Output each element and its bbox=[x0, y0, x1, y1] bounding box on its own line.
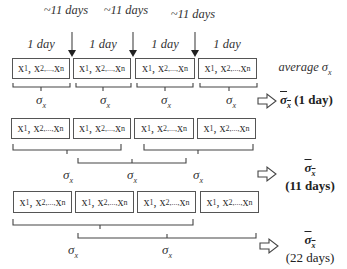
sigma-label: σx bbox=[193, 167, 203, 185]
result-arrow-1 bbox=[258, 94, 276, 108]
day-label-4: 1 day bbox=[213, 37, 240, 52]
sigma-label: σx bbox=[226, 92, 236, 110]
sigma-label: σx bbox=[100, 92, 110, 110]
result-11days: σx(11 days) bbox=[280, 160, 340, 194]
result-1day: σx (1 day) bbox=[280, 92, 333, 110]
sigma-label: σx bbox=[63, 167, 73, 185]
sample-box: x1, x2,...,xn bbox=[134, 118, 194, 139]
interval-label-2: ~11 days bbox=[104, 3, 148, 18]
sample-box: x1, x2,...,xn bbox=[200, 191, 259, 213]
result-arrow-3 bbox=[260, 239, 278, 253]
sigma-label: σx bbox=[36, 92, 46, 110]
result-22days: σx(22 days) bbox=[280, 232, 340, 266]
result-arrow-2 bbox=[258, 167, 276, 181]
sigma-label: σx bbox=[127, 167, 137, 185]
sigma-label: σx bbox=[161, 92, 171, 110]
day-label-2: 1 day bbox=[89, 37, 116, 52]
sample-box: x1, x2,...,xn bbox=[11, 118, 70, 139]
sample-box: x1, x2,...,xn bbox=[12, 58, 70, 79]
sample-box: x1, x2,...,xn bbox=[135, 58, 195, 79]
sample-box: x1, x2,...,xn bbox=[73, 58, 131, 79]
day-label-1: 1 day bbox=[27, 37, 54, 52]
sample-box: x1, x2,...,xn bbox=[73, 118, 131, 139]
sigma-label: σx bbox=[162, 242, 172, 260]
interval-label-1: ~11 days bbox=[44, 3, 88, 18]
sample-box: x1, x2,...,xn bbox=[198, 58, 257, 79]
day-label-3: 1 day bbox=[151, 37, 178, 52]
sample-box: x1, x2,...,xn bbox=[13, 191, 72, 213]
interval-label-3: ~11 days bbox=[171, 7, 215, 22]
sample-box: x1, x2,...,xn bbox=[137, 191, 196, 213]
sample-box: x1, x2,...,xn bbox=[197, 118, 256, 139]
average-sigma-label: average σx bbox=[278, 60, 331, 77]
sigma-label: σx bbox=[68, 242, 78, 260]
sample-box: x1, x2,...,xn bbox=[75, 191, 134, 213]
